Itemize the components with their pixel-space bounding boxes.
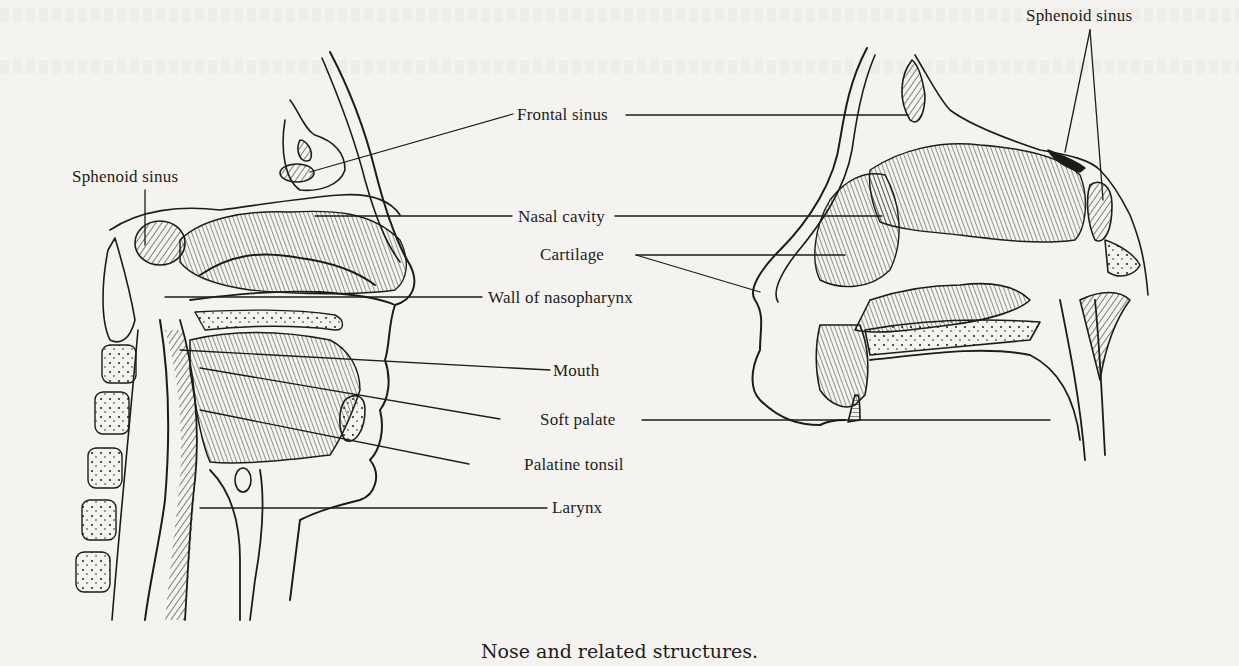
label-frontal-sinus: Frontal sinus xyxy=(517,106,608,123)
label-sphenoid-sinus-left: Sphenoid sinus xyxy=(72,168,178,185)
label-soft-palate: Soft palate xyxy=(540,411,615,428)
label-larynx: Larynx xyxy=(552,499,602,516)
right-nose-section xyxy=(753,48,1149,460)
left-head-section xyxy=(76,52,414,620)
label-sphenoid-sinus-right: Sphenoid sinus xyxy=(1026,7,1132,24)
anatomy-figure xyxy=(0,0,1239,666)
label-mouth: Mouth xyxy=(553,362,599,379)
label-nasal-cavity: Nasal cavity xyxy=(518,208,605,225)
label-palatine-tonsil: Palatine tonsil xyxy=(524,456,624,473)
label-wall-of-nasopharynx: Wall of nasopharynx xyxy=(488,289,633,306)
figure-caption: Nose and related structures. xyxy=(0,640,1239,662)
textbook-page: Sphenoid sinus Frontal sinus Nasal cavit… xyxy=(0,0,1239,666)
label-cartilage: Cartilage xyxy=(540,246,604,263)
